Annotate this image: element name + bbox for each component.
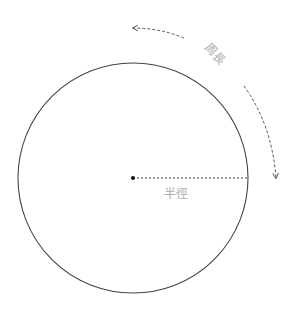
circumference-label: 周長 — [202, 41, 229, 68]
circumference-arrow-right — [244, 86, 276, 178]
radius-label: 半徑 — [164, 187, 188, 201]
circumference-arrow-top — [133, 28, 184, 38]
circle-diagram: 半徑 周長 — [0, 0, 301, 317]
center-point — [131, 176, 135, 180]
